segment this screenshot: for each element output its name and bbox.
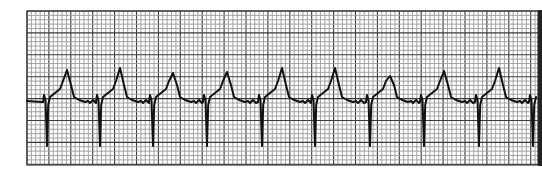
ecg-strip (0, 0, 542, 177)
right-edge-mark (538, 10, 542, 166)
